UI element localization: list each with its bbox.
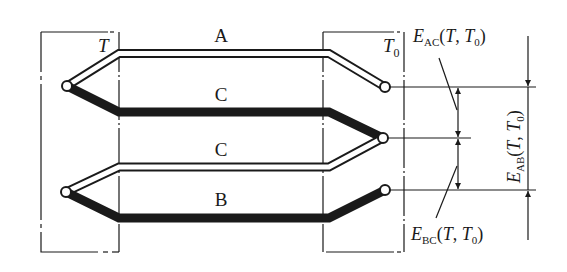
wire-label-c-lower: C [215,139,228,160]
wire-label-a: A [214,25,228,46]
cold-terminal-a [380,82,390,92]
thermocouple-diagram: A C C B T T0 EAC(T, T0) EBC(T, T0) EAB(T… [0,0,567,272]
emf-ac-label: EAC(T, T0) [412,26,486,48]
leader-bc [436,166,457,218]
wire-label-b: B [215,189,228,210]
leader-ac [439,58,457,110]
hot-junction-bc [61,187,71,197]
emf-bc-label: EBC(T, T0) [410,224,483,246]
wire-label-c-upper: C [215,84,228,105]
cold-temperature-sub: 0 [394,46,400,60]
cold-temperature-label: T0 [383,35,400,60]
hot-temperature-label: T [98,35,110,56]
hot-junction-ac [62,81,72,91]
wire-a [67,54,385,88]
cold-terminal-c [378,133,388,143]
cold-terminal-b [380,185,390,195]
emf-ab-label: EAB(T, T0) [504,110,526,184]
